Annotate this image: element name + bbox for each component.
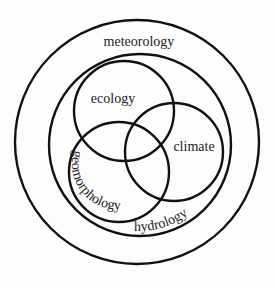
- hydrology-label: hydrology: [134, 205, 190, 234]
- ecology-circle: [74, 61, 174, 161]
- disciplines-venn-diagram: meteorology ecology climate geomorpholog…: [0, 0, 277, 287]
- meteorology-label: meteorology: [104, 34, 175, 49]
- climate-label: climate: [173, 139, 214, 154]
- ecology-label: ecology: [91, 91, 135, 106]
- hydrology-label-path: hydrology: [134, 205, 190, 234]
